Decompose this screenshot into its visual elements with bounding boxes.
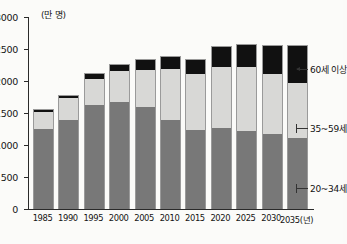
bar-segment-35-59세 — [59, 98, 78, 120]
bar-2010[interactable] — [160, 56, 181, 209]
legend-label-60-plus: 60세 이상 — [310, 63, 347, 76]
legend-item-35-59: 35~59세 — [297, 122, 347, 135]
bar-group — [29, 17, 314, 210]
x-axis-label-2010: 2010 — [160, 213, 180, 223]
bar-segment-35-59세 — [34, 112, 53, 129]
bar-segment-20-34세 — [136, 107, 155, 209]
bar-2030[interactable] — [262, 45, 283, 209]
bar-segment-20-34세 — [34, 129, 53, 209]
bar-2025[interactable] — [236, 44, 257, 209]
bar-2000[interactable] — [109, 64, 130, 209]
bar-1990[interactable] — [58, 95, 79, 209]
bar-2015[interactable] — [185, 59, 206, 209]
bar-segment-60세-이상 — [212, 47, 231, 67]
x-axis-label-1995: 1995 — [83, 213, 103, 223]
y-axis-tick-label: 500 — [1, 172, 18, 183]
x-axis-label-2015: 2015 — [185, 213, 205, 223]
legend-item-60-plus: 60세 이상 — [297, 63, 347, 76]
bar-segment-35-59세 — [186, 74, 205, 129]
y-axis-tick-label: 2500 — [0, 44, 18, 55]
y-axis-tick-label: 3000 — [0, 12, 18, 23]
x-axis-label-2000: 2000 — [109, 213, 129, 223]
y-axis-tick-label: 0 — [12, 204, 18, 215]
bar-segment-60세-이상 — [136, 60, 155, 70]
legend-item-20-34: 20~34세 — [297, 182, 347, 195]
bar-segment-60세-이상 — [186, 60, 205, 75]
x-axis-label-2025: 2025 — [236, 213, 256, 223]
x-axis-label-2030: 2030 — [261, 213, 281, 223]
x-axis-label-1985: 1985 — [33, 213, 53, 223]
y-axis-tick-label: 2000 — [0, 76, 18, 87]
x-axis-label-2035: 2035(년) — [280, 213, 313, 225]
bar-segment-20-34세 — [212, 128, 231, 209]
bar-2005[interactable] — [135, 59, 156, 209]
legend-label-20-34: 20~34세 — [310, 182, 347, 195]
x-axis-label-2020: 2020 — [210, 213, 230, 223]
arrow-icon — [297, 69, 308, 70]
tick-marker-icon — [297, 128, 308, 129]
bar-segment-20-34세 — [110, 102, 129, 209]
plot-area: 050010001500200025003000 — [28, 17, 314, 210]
bar-segment-20-34세 — [263, 134, 282, 209]
y-axis-tick-label: 1500 — [0, 108, 18, 119]
bar-2020[interactable] — [211, 46, 232, 209]
bar-segment-35-59세 — [136, 70, 155, 107]
x-axis-labels: 1985199019952000200520102015202020252030… — [28, 213, 314, 233]
bar-1995[interactable] — [84, 73, 105, 209]
legend-label-35-59: 35~59세 — [310, 122, 347, 135]
bar-segment-35-59세 — [263, 74, 282, 134]
bar-segment-35-59세 — [237, 67, 256, 131]
bar-segment-35-59세 — [161, 69, 180, 121]
bar-segment-35-59세 — [212, 67, 231, 128]
bar-segment-60세-이상 — [237, 45, 256, 67]
bar-segment-35-59세 — [85, 79, 104, 106]
bar-segment-20-34세 — [59, 120, 78, 209]
bar-segment-20-34세 — [237, 131, 256, 209]
bar-segment-20-34세 — [161, 120, 180, 209]
x-axis-label-1990: 1990 — [58, 213, 78, 223]
tick-marker-icon — [297, 188, 308, 189]
bar-1985[interactable] — [33, 109, 54, 209]
bar-segment-20-34세 — [288, 138, 307, 209]
x-axis-label-2005: 2005 — [134, 213, 154, 223]
bar-segment-20-34세 — [186, 130, 205, 209]
y-axis-tick-label: 1000 — [0, 140, 18, 151]
bar-segment-60세-이상 — [161, 57, 180, 69]
bar-segment-35-59세 — [110, 71, 129, 102]
bar-segment-60세-이상 — [263, 46, 282, 74]
bar-segment-20-34세 — [85, 105, 104, 209]
